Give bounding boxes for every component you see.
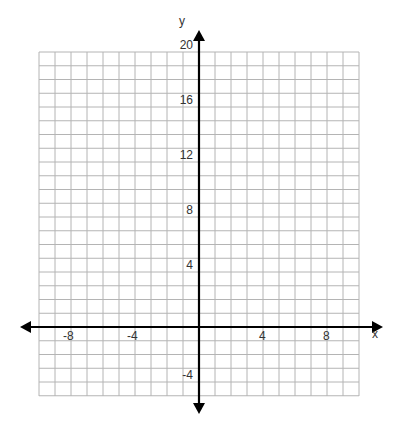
y-axis-down-arrow-icon bbox=[193, 403, 205, 414]
x-axis-left-arrow-icon bbox=[20, 321, 31, 333]
y-axis-up-arrow-icon bbox=[193, 30, 205, 41]
x-tick-label: 8 bbox=[323, 329, 330, 343]
y-tick-label: -4 bbox=[182, 368, 193, 382]
y-tick-label: 20 bbox=[180, 38, 194, 52]
x-axis-label: x bbox=[372, 327, 378, 341]
y-tick-label: 16 bbox=[180, 93, 194, 107]
x-tick-label: -8 bbox=[63, 329, 74, 343]
x-tick-label: 4 bbox=[259, 329, 266, 343]
y-tick-label: 8 bbox=[186, 203, 193, 217]
coordinate-plane: -8-448-448121620 x y bbox=[0, 0, 394, 436]
y-tick-label: 4 bbox=[186, 258, 193, 272]
axes bbox=[20, 30, 383, 414]
x-tick-label: -4 bbox=[127, 329, 138, 343]
y-axis-label: y bbox=[179, 14, 185, 28]
y-tick-label: 12 bbox=[180, 148, 194, 162]
